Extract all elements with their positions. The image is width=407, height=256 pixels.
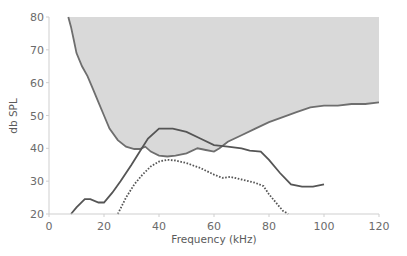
y-axis-title: db SPL xyxy=(7,98,19,134)
x-tick-label: 80 xyxy=(262,220,276,233)
plot-area xyxy=(68,17,379,214)
chart: 20304050607080 db SPL 020406080100120 Fr… xyxy=(0,0,407,256)
y-axis: 20304050607080 db SPL xyxy=(7,11,49,221)
y-tick-label: 80 xyxy=(30,11,44,24)
dotted-curve xyxy=(118,160,288,214)
x-tick-label: 40 xyxy=(152,220,166,233)
y-tick-label: 20 xyxy=(30,208,44,221)
x-tick-label: 60 xyxy=(207,220,221,233)
x-ticks: 020406080100120 xyxy=(46,214,390,233)
y-tick-label: 40 xyxy=(30,142,44,155)
x-axis-title: Frequency (kHz) xyxy=(171,233,256,245)
x-tick-label: 0 xyxy=(46,220,53,233)
y-tick-label: 70 xyxy=(30,44,44,57)
x-tick-label: 120 xyxy=(369,220,390,233)
x-tick-label: 100 xyxy=(314,220,335,233)
y-tick-label: 60 xyxy=(30,77,44,90)
x-axis: 020406080100120 Frequency (kHz) xyxy=(46,214,390,245)
y-tick-label: 50 xyxy=(30,110,44,123)
x-tick-label: 20 xyxy=(97,220,111,233)
y-ticks: 20304050607080 xyxy=(30,11,49,221)
y-tick-label: 30 xyxy=(30,175,44,188)
